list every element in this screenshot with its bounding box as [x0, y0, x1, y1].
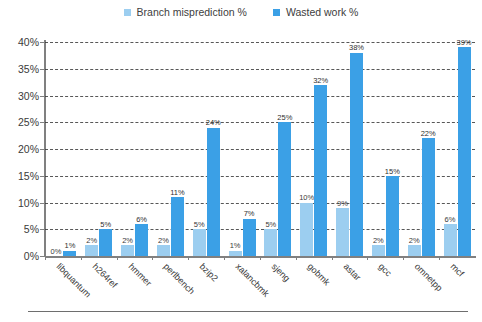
bar-wasted-work[interactable]: 6%	[135, 224, 148, 256]
bar-wasted-work[interactable]: 25%	[278, 122, 291, 256]
x-axis-label: h264ref	[90, 262, 118, 290]
x-axis-label: gobmk	[305, 262, 330, 287]
bar-group: 5%25%	[260, 42, 296, 256]
x-axis-label: bzip2	[198, 262, 220, 284]
y-tick-label-4: 20%	[5, 144, 39, 155]
bar-wasted-work[interactable]: 5%	[99, 229, 112, 256]
bar-branch-misprediction[interactable]: 5%	[193, 229, 206, 256]
bar-value-label: 0%	[50, 248, 61, 256]
bar-branch-misprediction[interactable]: 2%	[157, 245, 170, 256]
bar-branch-misprediction[interactable]: 2%	[85, 245, 98, 256]
bar-value-label: 32%	[313, 77, 328, 85]
bar-wasted-work[interactable]: 24%	[207, 128, 220, 256]
y-tick-label-5: 15%	[5, 171, 39, 182]
x-axis-label-cell: h264ref	[81, 258, 117, 316]
bar-value-label: 25%	[277, 114, 292, 122]
bar-value-label: 38%	[349, 44, 364, 52]
x-tick-mark	[117, 256, 118, 260]
bottom-divider	[28, 311, 468, 312]
bar-value-label: 5%	[265, 221, 276, 229]
bar-wasted-work[interactable]: 11%	[171, 197, 184, 256]
bar-branch-misprediction[interactable]: 5%	[264, 229, 277, 256]
x-axis-label-cell: bzip2	[188, 258, 224, 316]
bar-value-label: 10%	[299, 194, 314, 202]
bar-value-label: 15%	[385, 168, 400, 176]
x-axis-label: astar	[341, 262, 362, 283]
x-axis-label-cell: mcf	[439, 258, 475, 316]
x-tick-mark	[45, 256, 46, 260]
x-tick-mark	[332, 256, 333, 260]
x-axis-label-cell: xalancbmk	[224, 258, 260, 316]
bar-branch-misprediction[interactable]: 6%	[444, 224, 457, 256]
bar-wasted-work[interactable]: 7%	[243, 219, 256, 256]
legend-entry-branch-misprediction: Branch misprediction %	[124, 7, 247, 18]
bar-branch-misprediction[interactable]: 2%	[121, 245, 134, 256]
bar-branch-misprediction[interactable]: 2%	[408, 245, 421, 256]
x-axis-labels: libquantumh264refhmmerperlbenchbzip2xala…	[45, 258, 475, 316]
legend-label: Branch misprediction %	[137, 7, 247, 18]
bar-group: 2%5%	[81, 42, 117, 256]
x-axis-label-cell: gcc	[367, 258, 403, 316]
bar-group: 2%11%	[152, 42, 188, 256]
x-tick-mark	[296, 256, 297, 260]
bar-wasted-work[interactable]: 32%	[314, 85, 327, 256]
bar-wasted-work[interactable]: 1%	[63, 251, 76, 256]
bar-branch-misprediction[interactable]: 10%	[300, 203, 313, 257]
x-axis-label-cell: omnetpp	[403, 258, 439, 316]
bar-value-label: 1%	[64, 242, 75, 250]
y-tick-label-3: 25%	[5, 117, 39, 128]
bar-chart: Branch misprediction % Wasted work % 40%…	[0, 0, 482, 322]
x-axis-label: hmmer	[126, 262, 152, 288]
bar-value-label: 7%	[244, 210, 255, 218]
x-axis-label: mcf	[449, 262, 466, 279]
bar-wasted-work[interactable]: 39%	[458, 47, 471, 256]
x-tick-mark	[260, 256, 261, 260]
plot-area: 0%1%2%5%2%6%2%11%5%24%1%7%5%25%10%32%9%3…	[45, 42, 475, 256]
x-axis-label-cell: astar	[332, 258, 368, 316]
bar-groups: 0%1%2%5%2%6%2%11%5%24%1%7%5%25%10%32%9%3…	[45, 42, 475, 256]
bar-value-label: 2%	[373, 237, 384, 245]
bar-group: 1%7%	[224, 42, 260, 256]
bar-value-label: 39%	[457, 39, 472, 47]
bar-value-label: 2%	[409, 237, 420, 245]
y-tick-label-2: 30%	[5, 91, 39, 102]
x-tick-mark	[188, 256, 189, 260]
x-tick-mark	[152, 256, 153, 260]
y-tick-label-6: 10%	[5, 198, 39, 209]
x-axis-label-cell: sjeng	[260, 258, 296, 316]
bar-group: 2%6%	[117, 42, 153, 256]
x-tick-mark	[403, 256, 404, 260]
y-tick-label-7: 5%	[5, 224, 39, 235]
bar-wasted-work[interactable]: 38%	[350, 53, 363, 256]
y-tick-label-0: 40%	[5, 37, 39, 48]
square-swatch-icon	[273, 9, 280, 16]
bar-branch-misprediction[interactable]: 9%	[336, 208, 349, 256]
bar-value-label: 9%	[337, 200, 348, 208]
x-tick-mark	[367, 256, 368, 260]
x-axis-label: sjeng	[270, 262, 292, 284]
bar-branch-misprediction[interactable]: 1%	[229, 251, 242, 256]
x-tick-mark	[81, 256, 82, 260]
bar-group: 9%38%	[332, 42, 368, 256]
x-axis-label-cell: libquantum	[45, 258, 81, 316]
bar-wasted-work[interactable]: 22%	[422, 138, 435, 256]
bar-group: 5%24%	[188, 42, 224, 256]
bar-group: 10%32%	[296, 42, 332, 256]
x-axis-label-cell: hmmer	[117, 258, 153, 316]
x-axis-label-cell: gobmk	[296, 258, 332, 316]
bar-branch-misprediction[interactable]: 2%	[372, 245, 385, 256]
bar-value-label: 2%	[122, 237, 133, 245]
bar-value-label: 5%	[194, 221, 205, 229]
y-tick-label-1: 35%	[5, 64, 39, 75]
chart-legend: Branch misprediction % Wasted work %	[0, 7, 482, 18]
bar-group: 2%15%	[367, 42, 403, 256]
legend-label: Wasted work %	[286, 7, 359, 18]
x-tick-mark	[439, 256, 440, 260]
bar-value-label: 6%	[136, 216, 147, 224]
x-axis-label: gcc	[377, 262, 393, 278]
bar-wasted-work[interactable]: 15%	[386, 176, 399, 256]
bar-value-label: 24%	[206, 119, 221, 127]
bar-group: 2%22%	[403, 42, 439, 256]
bar-value-label: 22%	[421, 130, 436, 138]
bar-group: 0%1%	[45, 42, 81, 256]
